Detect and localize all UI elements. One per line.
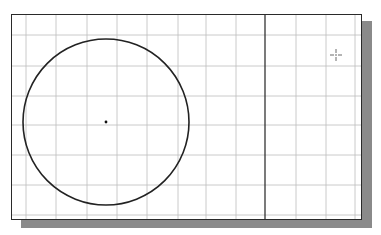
crosshair-cursor-icon [330,49,342,61]
drawing-svg[interactable] [0,0,381,235]
grid-lines [12,15,361,219]
circle-center-point [105,121,108,124]
